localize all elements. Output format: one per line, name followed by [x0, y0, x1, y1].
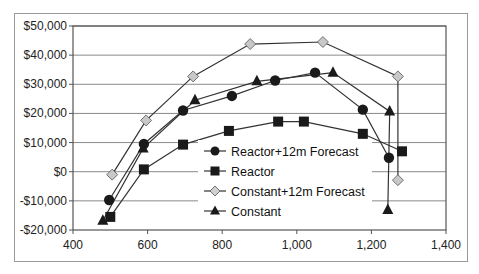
square-marker-icon	[299, 117, 309, 127]
diamond-marker-icon	[107, 169, 118, 180]
triangle-marker-icon	[384, 105, 395, 116]
square-marker-icon	[397, 146, 407, 156]
x-tick-label: 1,000	[282, 238, 312, 252]
y-tick-label: -$10,000	[20, 194, 68, 208]
diamond-marker-icon	[392, 175, 403, 186]
y-tick-label: -$20,000	[20, 223, 68, 237]
circle-marker-icon	[211, 147, 220, 156]
y-tick-label: $40,000	[24, 48, 68, 62]
circle-marker-icon	[178, 105, 188, 115]
diamond-marker-icon	[317, 37, 328, 48]
legend-label: Reactor	[231, 165, 275, 179]
legend-label: Reactor+12m Forecast	[231, 145, 359, 159]
triangle-marker-icon	[382, 203, 393, 214]
y-axis-labels: $50,000$40,000$30,000$20,000$10,000$0-$1…	[20, 19, 68, 237]
legend: Reactor+12m Forecast Reactor Constant+12…	[198, 140, 372, 224]
x-tick-label: 800	[212, 238, 232, 252]
circle-marker-icon	[384, 153, 394, 163]
diamond-marker-icon	[245, 39, 256, 50]
circle-marker-icon	[358, 104, 368, 114]
legend-label: Constant	[231, 205, 282, 219]
triangle-marker-icon	[327, 66, 338, 77]
x-tick-label: 1,400	[431, 238, 461, 252]
triangle-marker-icon	[251, 75, 262, 86]
legend-label: Constant+12m Forecast	[231, 185, 365, 199]
x-tick-label: 400	[63, 238, 83, 252]
y-tick-label: $10,000	[24, 136, 68, 150]
square-marker-icon	[178, 140, 188, 150]
diamond-marker-icon	[392, 71, 403, 82]
square-marker-icon	[211, 167, 220, 176]
x-axis-labels: 4006008001,0001,2001,400	[63, 238, 461, 252]
chart-svg: $50,000$40,000$30,000$20,000$10,000$0-$1…	[0, 0, 479, 274]
x-tick-label: 600	[138, 238, 158, 252]
circle-marker-icon	[227, 91, 237, 101]
x-tick-label: 1,200	[356, 238, 386, 252]
square-marker-icon	[273, 117, 283, 127]
y-tick-label: $50,000	[24, 19, 68, 33]
y-tick-label: $20,000	[24, 106, 68, 120]
circle-marker-icon	[310, 67, 320, 77]
square-marker-icon	[358, 129, 368, 139]
circle-marker-icon	[104, 195, 114, 205]
y-tick-label: $30,000	[24, 77, 68, 91]
circle-marker-icon	[270, 75, 280, 85]
square-marker-icon	[105, 212, 115, 222]
square-marker-icon	[139, 164, 149, 174]
square-marker-icon	[224, 126, 234, 136]
y-tick-label: $0	[54, 165, 68, 179]
